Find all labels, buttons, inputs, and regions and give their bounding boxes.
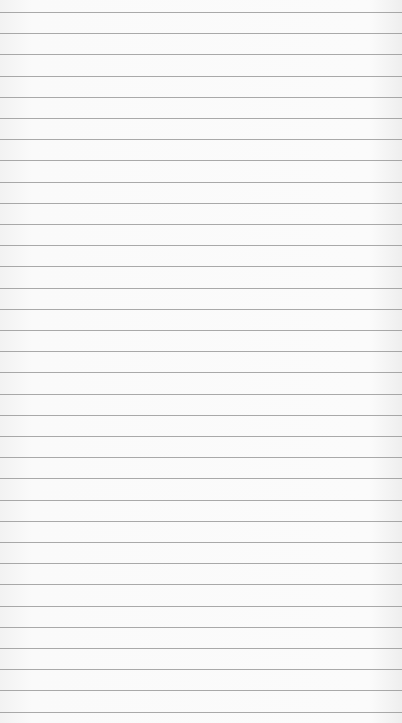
ruled-line (0, 563, 402, 564)
ruled-line (0, 627, 402, 628)
ruled-line (0, 118, 402, 119)
ruled-line (0, 690, 402, 691)
ruled-line (0, 478, 402, 479)
ruled-line (0, 584, 402, 585)
ruled-line (0, 648, 402, 649)
ruled-line (0, 288, 402, 289)
ruled-line (0, 542, 402, 543)
ruled-line (0, 521, 402, 522)
ruled-line (0, 76, 402, 77)
ruled-line (0, 436, 402, 437)
ruled-line (0, 372, 402, 373)
ruled-paper (0, 0, 402, 723)
ruled-line (0, 500, 402, 501)
ruled-line (0, 712, 402, 713)
ruled-line (0, 139, 402, 140)
ruled-line (0, 245, 402, 246)
ruled-line (0, 309, 402, 310)
ruled-line (0, 266, 402, 267)
ruled-line (0, 330, 402, 331)
ruled-line (0, 351, 402, 352)
ruled-line (0, 394, 402, 395)
ruled-line (0, 224, 402, 225)
ruled-line (0, 160, 402, 161)
ruled-line (0, 54, 402, 55)
ruled-line (0, 415, 402, 416)
ruled-line (0, 669, 402, 670)
ruled-line (0, 606, 402, 607)
ruled-line (0, 12, 402, 13)
ruled-line (0, 457, 402, 458)
ruled-line (0, 33, 402, 34)
ruled-line (0, 97, 402, 98)
ruled-line (0, 203, 402, 204)
ruled-line (0, 182, 402, 183)
